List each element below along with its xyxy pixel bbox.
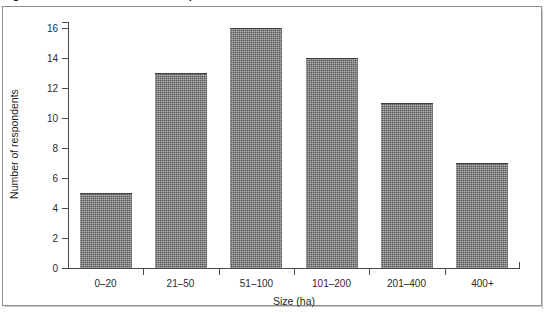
x-axis-tick xyxy=(219,269,220,275)
bar xyxy=(456,163,508,268)
y-axis-tick-label: 4 xyxy=(18,203,58,214)
bar xyxy=(230,28,282,268)
y-axis-tick-label: 8 xyxy=(18,143,58,154)
y-axis-tick-label: 16 xyxy=(18,23,58,34)
bar xyxy=(306,58,358,268)
y-axis-tick xyxy=(62,148,68,149)
y-axis-tick xyxy=(62,88,68,89)
y-axis-line xyxy=(68,22,69,269)
y-axis-tick xyxy=(62,28,68,29)
y-axis-tick xyxy=(62,208,68,209)
x-axis-tick-label: 101–200 xyxy=(294,278,369,289)
x-axis-tick-label: 21–50 xyxy=(143,278,218,289)
x-axis-tick xyxy=(445,269,446,275)
y-axis-tick-label: 12 xyxy=(18,83,58,94)
bar xyxy=(155,73,207,268)
y-axis-tick xyxy=(62,58,68,59)
bar xyxy=(80,193,132,268)
x-axis-tick-label: 51–100 xyxy=(219,278,294,289)
x-axis-title: Size (ha) xyxy=(68,295,520,307)
x-axis-right-cap xyxy=(519,262,520,269)
figure-caption: Figure 4: Farm Size Profile of Responden… xyxy=(2,0,402,3)
y-axis-tick xyxy=(62,178,68,179)
y-axis-tick-label: 10 xyxy=(18,113,58,124)
y-axis-tick-label: 2 xyxy=(18,233,58,244)
y-axis-tick xyxy=(62,118,68,119)
y-axis-tick xyxy=(62,238,68,239)
x-axis-tick-label: 400+ xyxy=(445,278,520,289)
y-axis-tick-label: 14 xyxy=(18,53,58,64)
x-axis-tick-label: 201–400 xyxy=(369,278,444,289)
x-axis-tick xyxy=(143,269,144,275)
y-axis-top-cap xyxy=(62,22,69,23)
figure-screenshot: Figure 4: Farm Size Profile of Responden… xyxy=(0,0,545,314)
y-axis-title: Number of respondents xyxy=(8,39,20,249)
frame-shadow-right xyxy=(542,9,543,309)
x-axis-tick xyxy=(294,269,295,275)
bar xyxy=(381,103,433,268)
y-axis-tick-label: 0 xyxy=(18,263,58,274)
x-axis-tick-label: 0–20 xyxy=(68,278,143,289)
y-axis-tick-label: 6 xyxy=(18,173,58,184)
x-axis-tick xyxy=(369,269,370,275)
y-axis-tick xyxy=(62,268,68,269)
